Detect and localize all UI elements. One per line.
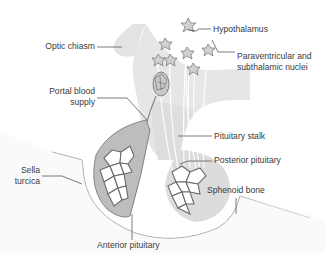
label-optic-chiasm: Optic chiasm [13,41,95,52]
label-sphenoid-bone: Sphenoid bone [207,185,265,196]
label-portal-blood-supply-line1: Portal blood [13,86,95,97]
label-sella-turcica-line2: turcica [0,176,40,187]
label-portal-blood-supply-line2: supply [13,97,95,108]
label-anterior-pituitary: Anterior pituitary [97,240,160,251]
pituitary-diagram [0,0,325,253]
label-paraventricular-line2: subthalamic nuclei [237,62,308,73]
label-hypothalamus: Hypothalamus [213,24,268,35]
label-posterior-pituitary: Posterior pituitary [214,155,281,166]
label-sella-turcica-line1: Sella [0,165,40,176]
label-pituitary-stalk: Pituitary stalk [214,131,265,142]
anterior-pituitary [94,120,150,217]
label-paraventricular-line1: Paraventricular and [237,51,312,62]
